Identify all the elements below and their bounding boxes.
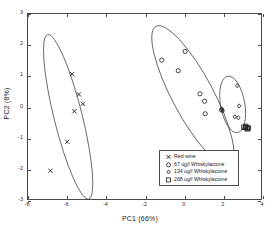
y-axis-label: PC2 (8%) (3, 74, 10, 134)
legend-item-0[interactable]: Red wine (162, 153, 236, 161)
legend-item-3[interactable]: 268 ug/l Whiskylactone (162, 176, 236, 184)
y-tick-label: -1 (3, 135, 23, 141)
data-point-x (166, 155, 170, 159)
legend-label: 67 ug/l Whiskylactone (174, 161, 224, 169)
data-point-o (183, 49, 187, 53)
x-tick-label: -8 (25, 202, 30, 208)
x-axis-tick (263, 14, 264, 17)
x-tick-label: 2 (221, 202, 224, 208)
legend-label: Red wine (174, 153, 196, 161)
data-point-s (166, 177, 170, 181)
legend-label: 268 ug/l Whiskylactone (174, 176, 227, 184)
x-tick-label: -2 (142, 202, 147, 208)
legend-marker-x-icon (162, 153, 174, 161)
legend-marker-d-icon (162, 168, 174, 176)
data-point-o (198, 92, 202, 96)
legend: Red wine67 ug/l Whiskylactone134 ug/l Wh… (159, 150, 239, 186)
y-tick-label: -2 (3, 166, 23, 172)
x-tick-label: -6 (64, 202, 69, 208)
data-point-o (166, 162, 170, 166)
x-tick-label: -4 (103, 202, 108, 208)
y-tick-label: 3 (3, 10, 23, 16)
legend-item-2[interactable]: 134 ug/l Whiskylactone (162, 168, 236, 176)
data-point-x (48, 169, 52, 173)
data-point-d (166, 170, 169, 174)
data-point-d (237, 116, 240, 120)
data-point-d (233, 115, 236, 119)
legend-label: 134 ug/l Whiskylactone (174, 168, 227, 176)
data-point-x (72, 109, 76, 113)
x-tick-label: 0 (182, 202, 185, 208)
data-point-x (65, 140, 69, 144)
confidence-ellipse (34, 31, 102, 202)
x-axis-label: PC1 (66%) (0, 215, 280, 222)
data-point-x (81, 102, 85, 106)
data-point-d (237, 104, 240, 108)
x-axis-tick (263, 196, 264, 199)
y-tick-label: -3 (3, 197, 23, 203)
data-point-o (203, 99, 207, 103)
x-tick-label: 4 (260, 202, 263, 208)
legend-marker-s-icon (162, 176, 174, 184)
pca-score-plot-figure: -8-6-4-20243210-1-2-3 PC1 (66%) PC2 (8%)… (0, 0, 280, 234)
data-point-o (160, 58, 164, 62)
data-point-x (77, 92, 81, 96)
legend-marker-o-icon (162, 161, 174, 169)
y-tick-label: 2 (3, 41, 23, 47)
data-point-o (203, 112, 207, 116)
data-point-o (176, 69, 180, 73)
legend-item-1[interactable]: 67 ug/l Whiskylactone (162, 161, 236, 169)
